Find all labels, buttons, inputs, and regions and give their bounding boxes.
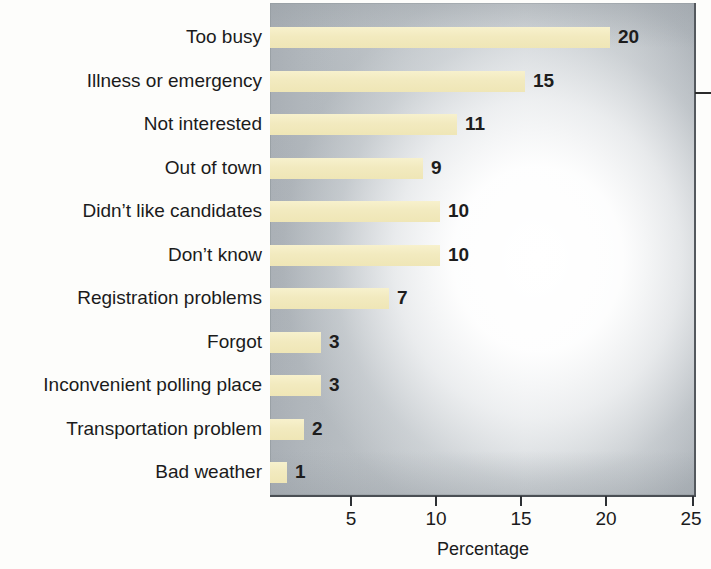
- x-tick-15: [520, 496, 522, 506]
- bar-value-transportation-problem: 2: [312, 418, 323, 439]
- bar-out-of-town: [270, 158, 423, 179]
- bar-dont-know: [270, 245, 440, 266]
- category-label-registration-problems: Registration problems: [0, 287, 262, 309]
- bar-registration-problems: [270, 288, 389, 309]
- x-tick-label-20: 20: [595, 508, 616, 530]
- x-tick-label-25: 25: [680, 508, 701, 530]
- category-label-dont-know: Don’t know: [0, 244, 262, 266]
- category-label-didnt-like-candidates: Didn’t like candidates: [0, 200, 262, 222]
- bar-value-dont-know: 10: [448, 244, 469, 265]
- bar-inconvenient-polling-place: [270, 375, 321, 396]
- x-tick-label-15: 15: [510, 508, 531, 530]
- x-tick-label-5: 5: [346, 508, 357, 530]
- bar-value-illness-or-emergency: 15: [533, 70, 554, 91]
- bar-illness-or-emergency: [270, 71, 525, 92]
- category-label-transportation-problem: Transportation problem: [0, 418, 262, 440]
- bar-bad-weather: [270, 462, 287, 483]
- bar-transportation-problem: [270, 419, 304, 440]
- bar-not-interested: [270, 114, 457, 135]
- category-axis-labels: Too busy Illness or emergency Not intere…: [0, 0, 262, 500]
- bar-value-registration-problems: 7: [397, 287, 408, 308]
- bar-didnt-like-candidates: [270, 201, 440, 222]
- plot-area: [270, 3, 695, 495]
- category-label-bad-weather: Bad weather: [0, 461, 262, 483]
- x-tick-25: [692, 496, 694, 506]
- right-edge-rule: [695, 92, 711, 94]
- x-axis-line: [270, 495, 696, 497]
- bar-value-not-interested: 11: [465, 113, 485, 134]
- category-label-out-of-town: Out of town: [0, 157, 262, 179]
- bar-value-bad-weather: 1: [295, 461, 306, 482]
- bar-value-didnt-like-candidates: 10: [448, 200, 469, 221]
- x-axis-title: Percentage: [270, 539, 696, 560]
- bar-forgot: [270, 332, 321, 353]
- bar-value-inconvenient-polling-place: 3: [329, 374, 340, 395]
- x-tick-label-10: 10: [425, 508, 446, 530]
- category-label-inconvenient-polling-place: Inconvenient polling place: [0, 374, 262, 396]
- plot-right-border: [694, 3, 696, 496]
- bar-value-too-busy: 20: [618, 26, 639, 47]
- bar-too-busy: [270, 27, 610, 48]
- bar-chart: 20 15 11 9 10 10 7 3 3 2 1 Too busy Illn…: [0, 0, 711, 569]
- bar-value-forgot: 3: [329, 331, 340, 352]
- bar-value-out-of-town: 9: [431, 157, 442, 178]
- x-tick-5: [350, 496, 352, 506]
- category-label-not-interested: Not interested: [0, 113, 262, 135]
- x-tick-10: [435, 496, 437, 506]
- category-label-too-busy: Too busy: [0, 26, 262, 48]
- x-tick-20: [605, 496, 607, 506]
- category-label-forgot: Forgot: [0, 331, 262, 353]
- category-label-illness-or-emergency: Illness or emergency: [0, 70, 262, 92]
